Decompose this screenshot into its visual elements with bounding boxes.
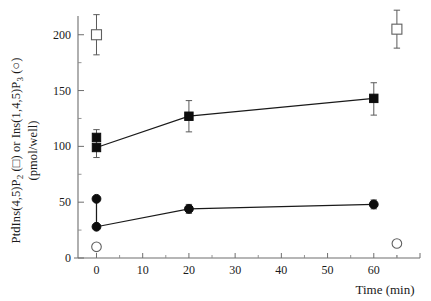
y-tick-label: 200 [53, 28, 71, 42]
series-connector-line [96, 204, 373, 226]
marker-filled-square [370, 94, 378, 102]
marker-filled-circle [369, 200, 378, 209]
marker-filled-circle [92, 194, 101, 203]
figure-panel: PtdIns(4,5)P2 (□) or Ins(1,4,5)P3 (○) (p… [0, 0, 431, 301]
marker-filled-circle [185, 204, 194, 213]
marker-filled-circle [92, 222, 101, 231]
marker-open-circle [92, 242, 102, 252]
x-tick-label: 60 [368, 263, 380, 277]
y-tick-label: 100 [53, 139, 71, 153]
y-tick-label: 0 [65, 251, 71, 265]
x-tick-label: 40 [275, 263, 287, 277]
x-tick-label: 20 [183, 263, 195, 277]
scatter-plot-canvas: 0501001502000102030405060Time (min) [0, 0, 431, 301]
marker-open-circle [392, 239, 402, 249]
x-tick-label: 50 [322, 263, 334, 277]
x-tick-label: 0 [93, 263, 99, 277]
x-axis-title: Time (min) [355, 282, 414, 297]
marker-filled-square [185, 112, 193, 120]
x-tick-label: 30 [229, 263, 241, 277]
marker-open-square [91, 30, 101, 40]
y-tick-label: 50 [59, 195, 71, 209]
x-tick-label: 10 [137, 263, 149, 277]
marker-filled-square [92, 143, 100, 151]
marker-open-square [392, 24, 402, 34]
y-tick-label: 150 [53, 84, 71, 98]
series-connector-line [96, 98, 373, 147]
marker-filled-square [92, 133, 100, 141]
